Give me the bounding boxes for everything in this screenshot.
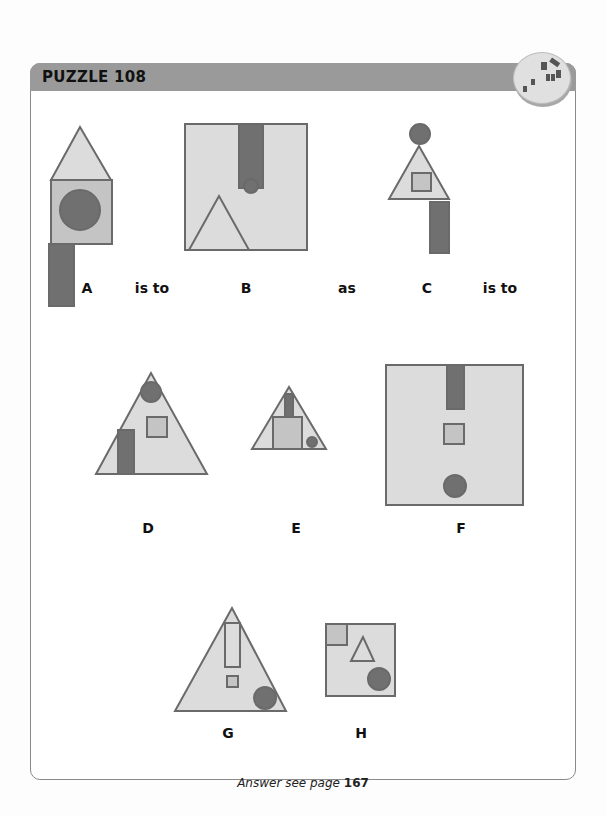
figure-b <box>185 124 307 250</box>
label-a: A <box>82 280 93 296</box>
figure-h <box>326 624 395 696</box>
option-label-e[interactable]: E <box>291 520 301 536</box>
option-label-h[interactable]: H <box>355 725 367 741</box>
answer-reference: Answer see page 167 <box>237 776 369 790</box>
option-label-f[interactable]: F <box>456 520 466 536</box>
label-b: B <box>241 280 252 296</box>
figure-a <box>49 127 112 306</box>
figure-c <box>389 124 449 253</box>
answer-page-number: 167 <box>344 776 369 790</box>
option-label-d[interactable]: D <box>142 520 154 536</box>
figure-g <box>175 608 286 711</box>
label-c: C <box>422 280 432 296</box>
connector-as: as <box>338 280 356 296</box>
figure-d <box>96 373 207 474</box>
option-label-g[interactable]: G <box>222 725 234 741</box>
puzzle-figures <box>0 0 606 816</box>
answer-prefix: Answer see page <box>237 776 340 790</box>
connector-is-to-2: is to <box>483 280 517 296</box>
figure-e <box>252 387 326 449</box>
figure-f <box>386 365 523 505</box>
connector-is-to-1: is to <box>135 280 169 296</box>
